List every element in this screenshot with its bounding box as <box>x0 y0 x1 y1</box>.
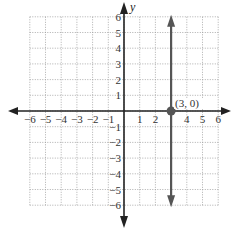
y-tick-label: −5 <box>109 184 121 196</box>
y-tick-label: −1 <box>109 121 121 133</box>
x-tick-label: 4 <box>184 113 190 125</box>
x-tick-label: 6 <box>215 113 221 125</box>
x-tick-label: 5 <box>200 113 206 125</box>
x-tick-label: 2 <box>153 113 159 125</box>
y-tick-label: 2 <box>116 74 122 86</box>
y-axis-label: y <box>129 0 136 14</box>
point-label: (3, 0) <box>175 97 199 110</box>
arrow-right-icon <box>221 107 231 115</box>
y-tick-label: 4 <box>116 42 122 54</box>
coordinate-graph: y −6−5−4−3−2−112456654321−1−2−3−4−5−6 (3… <box>0 0 231 234</box>
x-tick-label: −2 <box>87 113 99 125</box>
y-tick-label: −2 <box>109 136 121 148</box>
x-tick-label: 1 <box>137 113 143 125</box>
y-tick-label: 1 <box>116 89 122 101</box>
y-tick-label: 6 <box>116 11 122 23</box>
x-tick-label: −6 <box>24 113 36 125</box>
y-tick-label: −3 <box>109 152 121 164</box>
x-tick-label: −3 <box>71 113 83 125</box>
y-tick-label: −6 <box>109 199 121 211</box>
arrow-down-icon <box>120 216 128 228</box>
y-tick-label: 5 <box>116 27 122 39</box>
y-tick-label: −4 <box>109 168 121 180</box>
x-tick-label: −5 <box>40 113 52 125</box>
arrow-left-icon <box>8 107 18 115</box>
x-tick-label: −4 <box>55 113 67 125</box>
arrow-up-icon <box>120 2 128 14</box>
y-tick-label: 3 <box>116 58 122 70</box>
